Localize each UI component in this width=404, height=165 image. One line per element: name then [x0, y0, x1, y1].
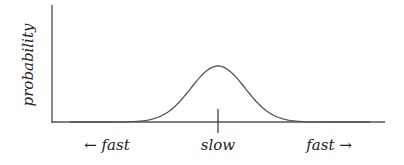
- x-label-right-fast: fast →: [305, 136, 352, 154]
- y-axis-label: probability: [19, 23, 37, 106]
- x-label-center-slow: slow: [201, 136, 236, 154]
- probability-diagram: probability ← fast slow fast →: [0, 0, 404, 165]
- bell-curve: [70, 66, 370, 122]
- x-label-left-fast: ← fast: [84, 136, 131, 154]
